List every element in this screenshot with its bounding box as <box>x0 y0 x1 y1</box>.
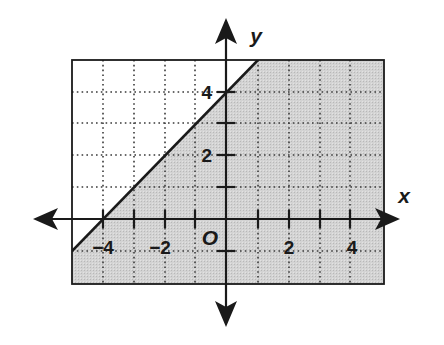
x-axis-label: x <box>397 184 411 207</box>
y-tick-label-4: 4 <box>201 82 212 103</box>
x-tick-label-2: 2 <box>284 237 295 258</box>
y-tick-label-2: 2 <box>201 145 212 166</box>
x-tick-label-4: 4 <box>347 237 358 258</box>
x-tick-label-neg2: −2 <box>149 237 171 258</box>
x-tick-label-neg4: −4 <box>92 237 114 258</box>
coordinate-plane: −4 −2 2 4 2 4 x y O <box>0 0 444 345</box>
origin-label: O <box>202 226 218 249</box>
y-axis-label: y <box>249 24 263 47</box>
